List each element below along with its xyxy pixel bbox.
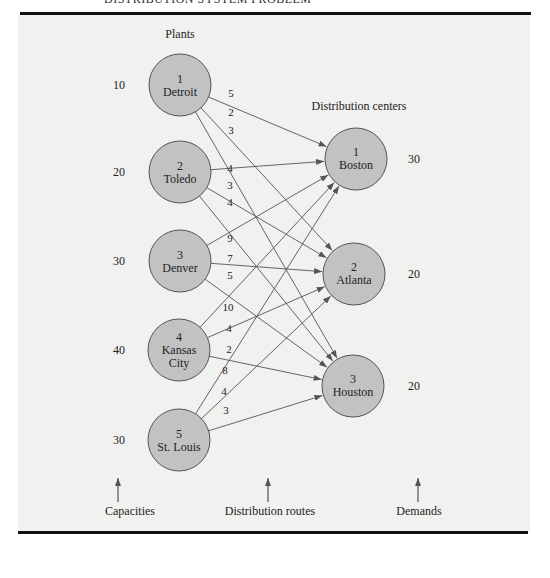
nodes-layer: 1Detroit102Toledo203Denver304KansasCity4… — [113, 54, 420, 471]
distribution-centers-heading: Distribution centers — [312, 99, 407, 113]
plant-name: Toledo — [163, 172, 196, 186]
plant-name: Detroit — [163, 85, 198, 99]
center-demand: 20 — [408, 379, 420, 393]
center-id: 3 — [350, 372, 356, 386]
center-node-atlanta: 2Atlanta — [323, 243, 385, 305]
route-cost-label: 2 — [228, 106, 234, 118]
routes-layer — [195, 97, 338, 431]
center-name: Atlanta — [336, 273, 372, 287]
plant-id: 3 — [177, 248, 183, 262]
demands-label: Demands — [396, 504, 442, 518]
plant-capacity: 30 — [113, 433, 125, 447]
route-cost-label: 7 — [227, 252, 233, 264]
route-cost-label: 8 — [222, 364, 228, 376]
center-demand: 20 — [408, 267, 420, 281]
route-3-to-1 — [207, 175, 328, 245]
distribution-routes-label: Distribution routes — [225, 504, 316, 518]
capacities-label: Capacities — [105, 504, 155, 518]
route-1-to-3 — [195, 112, 337, 358]
plant-id: 5 — [176, 427, 182, 441]
plant-capacity: 20 — [113, 165, 125, 179]
center-name: Boston — [339, 158, 373, 172]
center-name: Houston — [333, 385, 374, 399]
plant-id: 2 — [177, 159, 183, 173]
route-cost-label: 4 — [227, 162, 233, 174]
plant-capacity: 10 — [113, 78, 125, 92]
center-demand: 30 — [408, 152, 420, 166]
network-diagram: Plants Distribution centers 523434975104… — [0, 0, 550, 578]
center-id: 2 — [351, 260, 357, 274]
plant-node-detroit: 1Detroit — [149, 54, 211, 116]
plant-node-st-louis: 5St. Louis — [148, 409, 210, 471]
plant-name: City — [169, 356, 190, 370]
route-cost-label: 5 — [227, 269, 233, 281]
plant-node-toledo: 2Toledo — [149, 141, 211, 203]
route-cost-label: 4 — [227, 196, 233, 208]
plants-heading: Plants — [165, 27, 195, 41]
plant-id: 1 — [177, 72, 183, 86]
route-cost-label: 3 — [223, 404, 229, 416]
route-4-to-1 — [200, 182, 334, 327]
route-1-to-2 — [201, 108, 332, 251]
route-cost-label: 10 — [223, 301, 235, 313]
route-2-to-2 — [207, 188, 327, 258]
route-cost-label: 3 — [228, 124, 234, 136]
route-5-to-1 — [196, 186, 339, 414]
route-cost-label: 9 — [227, 232, 233, 244]
route-3-to-3 — [205, 279, 327, 367]
plant-name: Kansas — [162, 343, 197, 357]
route-cost-label: 5 — [228, 87, 234, 99]
plant-capacity: 40 — [113, 343, 125, 357]
route-cost-label: 3 — [227, 179, 233, 191]
center-node-boston: 1Boston — [325, 128, 387, 190]
plant-id: 4 — [176, 330, 182, 344]
center-node-houston: 3Houston — [322, 355, 384, 417]
plant-node-kansas-city: 4KansasCity — [148, 319, 210, 381]
plant-name: St. Louis — [157, 440, 201, 454]
route-cost-label: 2 — [226, 343, 232, 355]
route-2-to-3 — [199, 196, 332, 361]
plant-capacity: 30 — [113, 254, 125, 268]
plant-name: Denver — [162, 261, 197, 275]
route-1-to-1 — [209, 97, 327, 147]
route-5-to-2 — [201, 296, 330, 419]
center-id: 1 — [353, 145, 359, 159]
plant-node-denver: 3Denver — [149, 230, 211, 292]
route-cost-label: 4 — [221, 385, 227, 397]
route-cost-label: 4 — [226, 322, 232, 334]
